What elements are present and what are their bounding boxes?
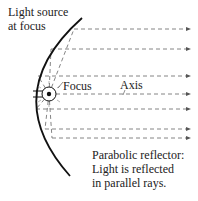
label-at-focus: at focus [8,19,46,33]
label-light-source: Light source [8,5,68,19]
parabolic-reflector-diagram: Light source at focus Focus Axis Parabol… [0,0,198,201]
caption-line-2: Light is reflected [92,162,174,176]
caption-line-1: Parabolic reflector: [92,148,184,162]
label-axis: Axis [120,78,143,92]
caption-line-3: in parallel rays. [92,176,166,190]
ray-arrowheads [186,27,191,140]
label-focus: Focus [63,79,92,93]
parallel-rays [36,29,186,138]
